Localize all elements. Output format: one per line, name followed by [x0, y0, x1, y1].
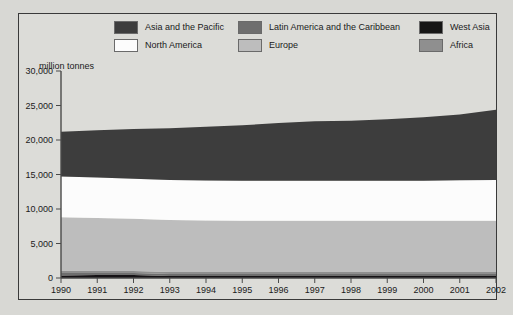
- x-tick-label-1996: 1996: [262, 285, 296, 295]
- x-tick-label-1993: 1993: [153, 285, 187, 295]
- x-tick-label-1991: 1991: [80, 285, 114, 295]
- x-tick-label-2001: 2001: [443, 285, 477, 295]
- x-tick-label-1990: 1990: [44, 285, 78, 295]
- area-band-asia-and-the-pacific: [61, 110, 496, 181]
- y-tick-label-5000: 5,000: [9, 239, 53, 249]
- x-tick-label-1995: 1995: [225, 285, 259, 295]
- plot-area: 05,00010,00015,00020,00025,00030,000 199…: [19, 14, 498, 301]
- area-band-north-america: [61, 177, 496, 221]
- chart-frame: Asia and the Pacific North America Latin…: [18, 13, 497, 300]
- area-band-europe: [61, 217, 496, 272]
- x-tick-label-1998: 1998: [334, 285, 368, 295]
- y-tick-label-15000: 15,000: [9, 170, 53, 180]
- y-tick-label-10000: 10,000: [9, 204, 53, 214]
- x-tick-label-1999: 1999: [370, 285, 404, 295]
- y-tick-label-20000: 20,000: [9, 135, 53, 145]
- x-tick-label-1997: 1997: [298, 285, 332, 295]
- stacked-bands: [61, 110, 496, 278]
- y-tick-label-25000: 25,000: [9, 101, 53, 111]
- area-chart-svg: [19, 14, 498, 301]
- x-tick-label-2002: 2002: [479, 285, 513, 295]
- y-tick-label-30000: 30,000: [9, 66, 53, 76]
- y-tick-label-0: 0: [9, 273, 53, 283]
- x-tick-label-1992: 1992: [117, 285, 151, 295]
- x-tick-label-1994: 1994: [189, 285, 223, 295]
- x-tick-label-2000: 2000: [407, 285, 441, 295]
